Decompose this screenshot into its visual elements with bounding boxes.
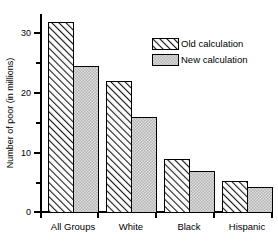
bar-new-all-groups <box>73 66 98 212</box>
bar-new-hispanic <box>247 187 272 212</box>
bar-new-white <box>131 117 156 212</box>
chart-canvas: 0 10 20 30 Number of poor (in millions) … <box>0 0 278 242</box>
bar-new-black <box>189 171 214 212</box>
x-category-label-all-groups: All Groups <box>51 221 96 232</box>
y-tick-label-10: 10 <box>21 148 31 158</box>
bar-old-hispanic <box>222 181 247 212</box>
x-category-label-hispanic: Hispanic <box>229 221 266 232</box>
legend-swatch-new-calculation <box>152 54 178 65</box>
x-category-label-white: White <box>119 221 143 232</box>
y-tick-label-0: 0 <box>26 207 31 217</box>
y-tick-label-30: 30 <box>21 28 31 38</box>
bar-old-white <box>106 81 131 212</box>
bar-chart: 0 10 20 30 Number of poor (in millions) … <box>0 0 278 242</box>
legend-label-new-calculation: New calculation <box>181 54 248 65</box>
legend-swatch-old-calculation <box>152 38 178 49</box>
y-axis-title: Number of poor (in millions) <box>5 58 15 169</box>
bar-old-all-groups <box>48 22 73 212</box>
legend-label-old-calculation: Old calculation <box>181 38 243 49</box>
bar-old-black <box>164 159 189 212</box>
y-tick-label-20: 20 <box>21 88 31 98</box>
x-category-label-black: Black <box>177 221 200 232</box>
